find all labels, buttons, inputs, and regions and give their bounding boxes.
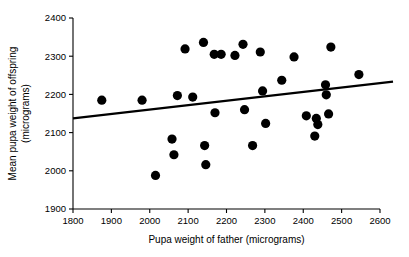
x-tick-label-2600: 2600 [369, 215, 390, 226]
data-point [210, 108, 219, 117]
data-point [322, 90, 331, 99]
y-tick-label-2300: 2300 [45, 51, 66, 62]
trend-line [73, 82, 393, 119]
data-point [167, 134, 176, 143]
data-point [238, 40, 247, 49]
data-point [261, 119, 270, 128]
data-point [173, 91, 182, 100]
x-tick-label-2100: 2100 [178, 215, 199, 226]
x-axis-title: Pupa weight of father (micrograms) [148, 234, 304, 245]
data-points [97, 38, 363, 180]
data-point [258, 86, 267, 95]
scatter-plot-figure: 1900200021002200230024001800190020002100… [0, 0, 409, 257]
data-point [151, 171, 160, 180]
data-point [199, 38, 208, 47]
data-point [321, 80, 330, 89]
data-point [313, 120, 322, 129]
data-point [256, 47, 265, 56]
data-point [169, 150, 178, 159]
data-point [180, 44, 189, 53]
data-point [97, 96, 106, 105]
data-point [201, 160, 210, 169]
data-point [217, 50, 226, 59]
data-point [200, 141, 209, 150]
y-tick-label-1900: 1900 [45, 203, 66, 214]
x-tick-label-2000: 2000 [139, 215, 160, 226]
y-tick-label-2100: 2100 [45, 127, 66, 138]
data-point [248, 141, 257, 150]
data-point [240, 105, 249, 114]
x-tick-label-1800: 1800 [62, 215, 83, 226]
y-tick-label-2400: 2400 [45, 12, 66, 23]
data-point [302, 111, 311, 120]
data-point [277, 76, 286, 85]
plot-canvas: 1900200021002200230024001800190020002100… [0, 0, 409, 257]
regression-line [73, 82, 393, 119]
data-point [289, 52, 298, 61]
data-point [188, 92, 197, 101]
data-point [324, 109, 333, 118]
data-point [310, 131, 319, 140]
y-axis-title-line1: Mean pupa weight of offspring [7, 47, 18, 181]
tick-labels: 1900200021002200230024001800190020002100… [45, 12, 391, 226]
x-tick-label-2500: 2500 [331, 215, 352, 226]
data-point [137, 96, 146, 105]
y-tick-label-2000: 2000 [45, 165, 66, 176]
x-tick-label-2400: 2400 [293, 215, 314, 226]
x-tick-label-1900: 1900 [101, 215, 122, 226]
data-point [354, 70, 363, 79]
x-tick-label-2300: 2300 [254, 215, 275, 226]
y-axis-title-line2: (micrograms) [20, 84, 31, 143]
x-tick-label-2200: 2200 [216, 215, 237, 226]
data-point [326, 42, 335, 51]
data-point [230, 51, 239, 60]
y-tick-label-2200: 2200 [45, 89, 66, 100]
